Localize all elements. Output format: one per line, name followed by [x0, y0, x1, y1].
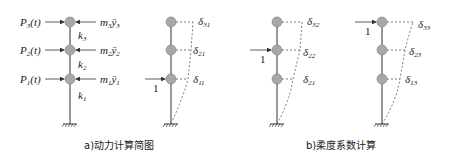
inertia-label-3: m3ÿ3	[100, 16, 120, 30]
delta-label: δ32	[307, 15, 320, 29]
mass-node-2	[65, 45, 75, 55]
delta-label: δ13	[405, 73, 418, 87]
deflected-shape	[171, 22, 193, 124]
unit-load-label: 1	[153, 82, 159, 94]
node-1	[166, 74, 176, 84]
caption-b: b)柔度系数计算	[306, 137, 376, 152]
delta-label: δ22	[303, 46, 316, 60]
fixed-support-icon	[62, 124, 77, 127]
flexibility-case-3: 1 δ33 δ23 δ13	[355, 17, 431, 127]
delta-label: δ21	[193, 44, 205, 58]
delta-label: δ21	[303, 73, 315, 87]
node-2	[272, 45, 282, 55]
structural-dynamics-diagram: P3(t) P2(t) P1(t) m3ÿ3 m2ÿ2 m1ÿ1 k3 k2 k…	[0, 0, 451, 153]
inertia-label-2: m2ÿ2	[100, 44, 120, 58]
fixed-support-icon	[374, 124, 389, 127]
flexibility-case-1: 1 δ31 δ21 δ11	[145, 15, 210, 127]
delta-label: δ31	[198, 15, 210, 29]
unit-load-label: 1	[365, 25, 371, 37]
inertia-label-1: m1ÿ1	[100, 73, 120, 87]
node-3	[166, 17, 176, 27]
unit-load-label: 1	[260, 53, 266, 65]
stiffness-label-2: k2	[78, 58, 87, 72]
mass-node-1	[65, 74, 75, 84]
node-1	[377, 74, 387, 84]
stiffness-label-3: k3	[78, 29, 87, 43]
delta-label: δ11	[193, 73, 205, 87]
stiffness-label-1: k1	[78, 89, 86, 103]
node-3	[377, 17, 387, 27]
load-label-2: P2(t)	[19, 44, 41, 58]
fixed-support-icon	[163, 124, 178, 127]
mass-node-3	[65, 17, 75, 27]
flexibility-case-2: 1 δ32 δ22 δ21	[250, 15, 320, 127]
fixed-support-icon	[269, 124, 284, 127]
delta-label: δ33	[418, 18, 431, 32]
node-2	[377, 45, 387, 55]
delta-label: δ23	[409, 45, 422, 59]
load-label-1: P1(t)	[19, 73, 41, 87]
dynamic-model-a: P3(t) P2(t) P1(t) m3ÿ3 m2ÿ2 m1ÿ1 k3 k2 k…	[19, 16, 120, 127]
node-1	[272, 74, 282, 84]
deflected-shape	[277, 22, 302, 124]
caption-a: a)动力计算简图	[84, 137, 154, 152]
node-2	[166, 45, 176, 55]
node-3	[272, 17, 282, 27]
load-label-3: P3(t)	[19, 16, 41, 30]
